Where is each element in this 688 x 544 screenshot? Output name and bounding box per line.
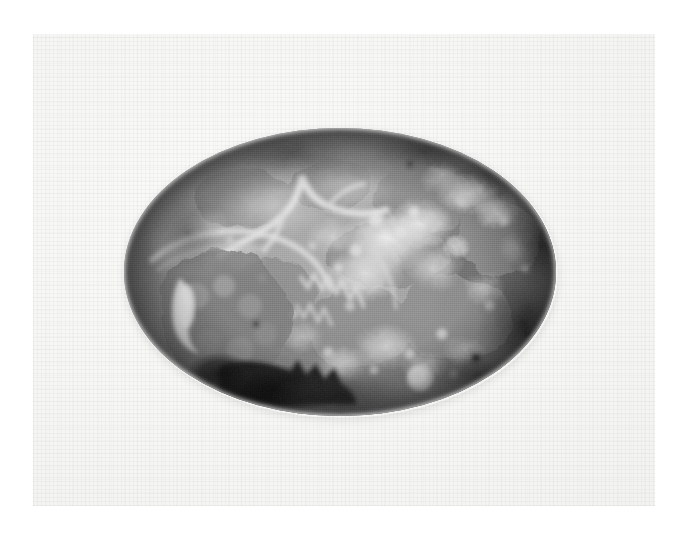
specimen-image <box>124 128 556 416</box>
photographic-plate <box>0 0 688 544</box>
paper-sheet <box>33 34 655 506</box>
specimen-photograph <box>124 128 556 416</box>
